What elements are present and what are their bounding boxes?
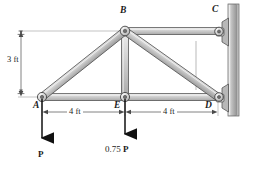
- load-label-075P: 0.75 P: [105, 145, 129, 154]
- dimension-label-4ft-left: 4 ft: [67, 107, 83, 116]
- joint-label-D: D: [205, 101, 212, 111]
- dimension-3ft: [18, 32, 25, 97]
- joint-label-E: E: [114, 101, 120, 111]
- member-BE: [121, 31, 128, 97]
- joint-pin-D: [215, 93, 224, 102]
- joint-pin-B: [120, 26, 130, 36]
- joint-label-A: A: [33, 101, 39, 111]
- joint-label-B: B: [120, 6, 126, 16]
- member-AB: [40, 28, 128, 100]
- support-wall: [228, 4, 239, 116]
- load-value-symbol: P: [123, 144, 129, 154]
- dimension-4ft-left: [43, 110, 125, 115]
- dimension-label-3ft: 3 ft: [7, 55, 19, 64]
- truss-figure: A B C D E 3 ft 4 ft 4 ft P 0.75 P: [0, 0, 256, 169]
- joint-label-C: C: [212, 5, 218, 15]
- joint-pin-C: [215, 27, 224, 36]
- member-BC: [125, 28, 219, 35]
- dimension-label-4ft-right: 4 ft: [161, 107, 177, 116]
- load-value-number: 0.75: [105, 144, 123, 154]
- member-BD: [123, 28, 220, 100]
- load-label-P: P: [38, 150, 44, 159]
